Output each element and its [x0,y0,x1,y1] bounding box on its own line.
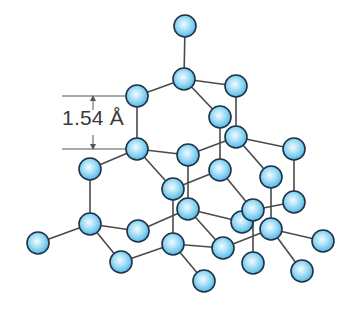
carbon-atom [127,220,149,242]
carbon-atom [283,138,305,160]
carbon-atom [283,191,305,213]
carbon-atom [212,237,234,259]
carbon-atom [126,85,148,107]
carbon-atom [209,159,231,181]
carbon-atom [177,198,199,220]
carbon-atom [225,75,247,97]
carbon-atom [225,126,247,148]
diamond-lattice-diagram [0,0,356,310]
bond-length-label: 1.54 Å [62,106,124,130]
carbon-atom [260,218,282,240]
carbon-atom [174,15,196,37]
carbon-atom [162,178,184,200]
carbon-atom [312,230,334,252]
carbon-atom [79,158,101,180]
carbon-atom [79,213,101,235]
carbon-atom [291,260,313,282]
carbon-atom [242,199,264,221]
carbon-atom [209,106,231,128]
carbon-atom [260,166,282,188]
carbon-atom [126,138,148,160]
carbon-atom [162,233,184,255]
atoms [27,15,334,292]
carbon-atom [27,232,49,254]
carbon-atom [173,68,195,90]
carbon-atom [177,144,199,166]
carbon-atom [110,251,132,273]
carbon-atom [193,270,215,292]
carbon-atom [242,252,264,274]
